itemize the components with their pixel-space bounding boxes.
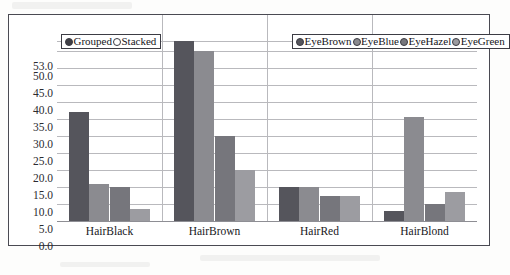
category-separator: [162, 15, 163, 221]
y-axis-tick-label: 30.0: [13, 139, 53, 151]
bar-EyeBlue-HairBlack: [89, 184, 109, 221]
scan-artifact: [200, 255, 380, 261]
scan-artifact: [60, 262, 150, 267]
y-axis-tick-label: 0.0: [13, 241, 53, 253]
bar-EyeBlue-HairBrown: [194, 51, 214, 221]
y-axis-tick-label: 5.0: [13, 224, 53, 236]
legend-label: EyeBlue: [361, 36, 399, 47]
x-axis-tick-label-HairBlond: HairBlond: [400, 225, 449, 237]
category-separator: [267, 15, 268, 221]
legend-label: Grouped: [74, 36, 113, 47]
bar-EyeHazel-HairBlond: [425, 204, 445, 221]
y-axis-tick-label: 10.0: [13, 207, 53, 219]
legend-label: Stacked: [122, 36, 157, 47]
y-axis-tick-label: 25.0: [13, 156, 53, 168]
bar-EyeBrown-HairRed: [279, 187, 299, 221]
legend-label: EyeBrown: [305, 36, 352, 47]
bar-EyeGreen-HairBrown: [235, 170, 255, 221]
radio-dot-icon[interactable]: [452, 38, 460, 46]
bar-EyeGreen-HairRed: [340, 196, 360, 221]
bar-EyeGreen-HairBlond: [445, 192, 465, 221]
radio-dot-icon[interactable]: [113, 38, 121, 46]
bar-EyeBrown-HairBrown: [174, 41, 194, 221]
y-axis-tick-label: 20.0: [13, 173, 53, 185]
bar-EyeHazel-HairBlack: [110, 187, 130, 221]
radio-dot-icon[interactable]: [353, 38, 361, 46]
x-axis-tick-label-HairRed: HairRed: [300, 225, 339, 237]
series-legend[interactable]: EyeBrownEyeBlueEyeHazelEyeGreen: [292, 34, 510, 49]
y-axis-tick-label: 53.0: [13, 61, 53, 73]
legend-series-EyeHazel[interactable]: EyeHazel: [400, 36, 452, 47]
legend-label: EyeHazel: [408, 36, 451, 47]
chart-frame: 0.05.010.015.020.025.030.035.040.045.050…: [8, 14, 490, 246]
y-axis-tick-label: 15.0: [13, 190, 53, 202]
y-axis-tick-label: 40.0: [13, 105, 53, 117]
plot-area: [57, 41, 477, 221]
y-axis-tick-label: 45.0: [13, 88, 53, 100]
y-axis-tick-label: 35.0: [13, 122, 53, 134]
bar-EyeHazel-HairRed: [320, 196, 340, 221]
page-background: 0.05.010.015.020.025.030.035.040.045.050…: [0, 0, 510, 275]
legend-series-EyeBrown[interactable]: EyeBrown: [296, 36, 353, 47]
bar-EyeBlue-HairBlond: [404, 117, 424, 221]
bar-EyeGreen-HairBlack: [130, 209, 150, 221]
gridline: [57, 221, 477, 222]
bar-EyeBrown-HairBlond: [384, 211, 404, 221]
y-axis: 0.05.010.015.020.025.030.035.040.045.050…: [9, 41, 53, 221]
radio-dot-icon[interactable]: [296, 38, 304, 46]
x-axis-tick-label-HairBlack: HairBlack: [86, 225, 133, 237]
radio-dot-icon[interactable]: [65, 38, 73, 46]
radio-dot-icon[interactable]: [400, 38, 408, 46]
mode-option-grouped[interactable]: Grouped: [65, 36, 113, 47]
bar-EyeHazel-HairBrown: [215, 136, 235, 221]
bar-EyeBrown-HairBlack: [69, 112, 89, 221]
chart-mode-legend[interactable]: GroupedStacked: [61, 34, 161, 49]
legend-series-EyeGreen[interactable]: EyeGreen: [452, 36, 505, 47]
bar-EyeBlue-HairRed: [299, 187, 319, 221]
legend-label: EyeGreen: [461, 36, 505, 47]
y-axis-tick-label: 50.0: [13, 71, 53, 83]
mode-option-stacked[interactable]: Stacked: [113, 36, 157, 47]
legend-series-EyeBlue[interactable]: EyeBlue: [353, 36, 400, 47]
scan-artifact: [12, 2, 132, 9]
x-axis-tick-label-HairBrown: HairBrown: [189, 225, 241, 237]
x-axis: HairBlackHairBrownHairRedHairBlond: [57, 223, 477, 243]
